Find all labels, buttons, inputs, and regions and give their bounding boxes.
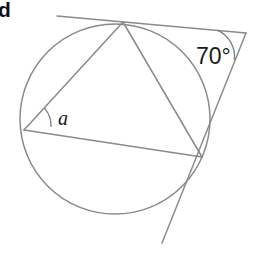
part-label-d: d	[0, 0, 11, 21]
angle-arc-a	[45, 108, 52, 127]
circle-outline	[20, 24, 210, 214]
chord-top-tangent-point-to-right-tangent-point	[123, 22, 202, 157]
angle-label-a: a	[58, 107, 68, 129]
angle-label-70-degrees: 70°	[196, 43, 231, 69]
chord-vertex-a-to-top-tangent-point	[24, 22, 123, 130]
tangent-line-upper	[57, 16, 246, 33]
geometry-figure: 70° a d	[0, 0, 257, 253]
chord-vertex-a-to-right-tangent-point	[24, 130, 202, 157]
circle-tangent-diagram: 70° a d	[0, 0, 257, 253]
